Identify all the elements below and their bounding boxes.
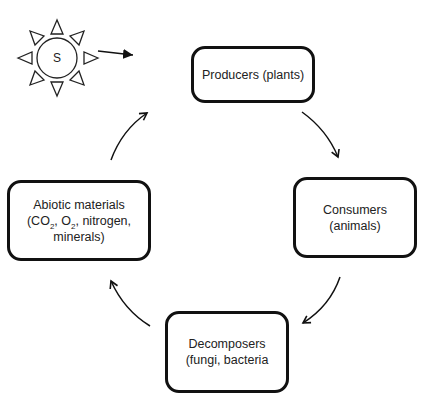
node-decomposers: Decomposers (fungi, bacteria xyxy=(165,311,289,393)
arrow-decomposers-to-abiotic xyxy=(111,281,150,326)
decomposers-label: Decomposers xyxy=(186,336,269,352)
arrow-producers-to-consumers xyxy=(302,112,338,157)
consumers-sublabel: (animals) xyxy=(323,218,387,234)
decomposers-sublabel: (fungi, bacteria xyxy=(186,352,269,368)
sun-label: S xyxy=(53,51,61,65)
arrow-sun-to-producers xyxy=(98,51,133,55)
nutrient-cycle-diagram: S Producers (plants) Consumers (animals)… xyxy=(0,0,434,416)
node-consumers: Consumers (animals) xyxy=(293,177,417,258)
producers-label: Producers (plants) xyxy=(202,67,304,83)
node-abiotic-materials: Abiotic materials (CO2, O2, nitrogen, mi… xyxy=(7,180,151,261)
abiotic-label: Abiotic materials xyxy=(27,197,131,213)
abiotic-minerals: minerals) xyxy=(27,229,131,245)
arrow-consumers-to-decomposers xyxy=(303,277,340,323)
arrow-abiotic-to-producers xyxy=(111,113,147,160)
node-producers: Producers (plants) xyxy=(191,46,315,103)
consumers-label: Consumers xyxy=(323,202,387,218)
abiotic-components: (CO2, O2, nitrogen, xyxy=(27,213,131,229)
